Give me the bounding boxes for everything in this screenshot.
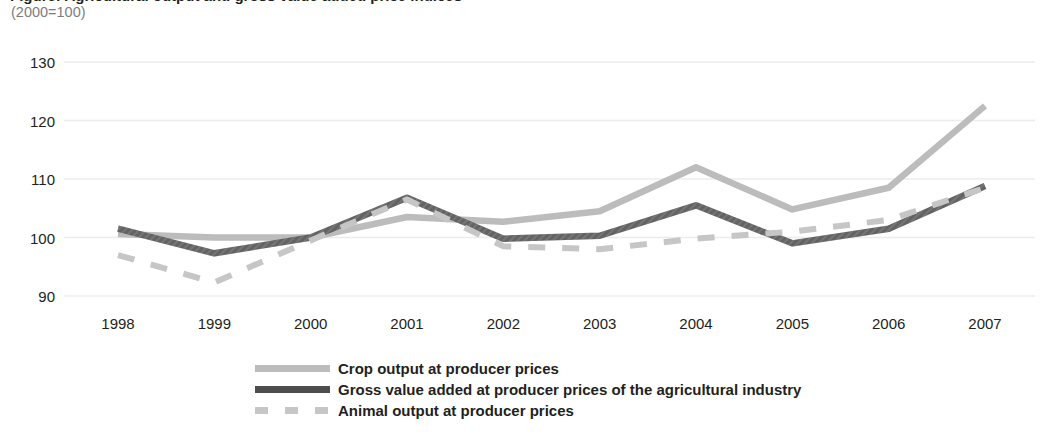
plot-area: 90100110120130 1998199920002001200220032… bbox=[0, 0, 1046, 340]
y-axis-tick-label: 120 bbox=[13, 113, 55, 128]
x-axis-tick-label: 2003 bbox=[560, 316, 640, 331]
y-axis-tick-label: 130 bbox=[13, 55, 55, 70]
x-axis-tick-label: 1998 bbox=[78, 316, 158, 331]
chart-legend: Crop output at producer pricesGross valu… bbox=[255, 358, 1045, 421]
legend-item-label: Animal output at producer prices bbox=[338, 403, 574, 418]
series-lines bbox=[118, 106, 985, 283]
series-line-0 bbox=[118, 106, 985, 238]
y-axis-tick-label: 90 bbox=[13, 289, 55, 304]
legend-item[interactable]: Animal output at producer prices bbox=[255, 400, 1045, 421]
legend-item-label: Gross value added at producer prices of … bbox=[338, 382, 801, 397]
solid-light-line-icon bbox=[255, 358, 330, 379]
x-axis-tick-label: 2006 bbox=[849, 316, 929, 331]
x-axis-tick-label: 2005 bbox=[752, 316, 832, 331]
legend-item[interactable]: Crop output at producer prices bbox=[255, 358, 1045, 379]
chart-figure: Figure: Agricultural output and gross va… bbox=[0, 0, 1046, 443]
dashed-light-line-icon bbox=[255, 400, 330, 421]
y-axis-tick-label: 110 bbox=[13, 172, 55, 187]
x-axis-tick-label: 2004 bbox=[656, 316, 736, 331]
x-axis-tick-label: 1999 bbox=[174, 316, 254, 331]
y-axis-tick-label: 100 bbox=[13, 230, 55, 245]
plot-svg bbox=[0, 0, 1046, 340]
x-axis-tick-label: 2001 bbox=[367, 316, 447, 331]
x-axis-tick-label: 2007 bbox=[945, 316, 1025, 331]
x-axis-tick-label: 2002 bbox=[463, 316, 543, 331]
gridlines bbox=[64, 62, 1035, 296]
hatched-dark-line-icon bbox=[255, 379, 330, 400]
legend-item[interactable]: Gross value added at producer prices of … bbox=[255, 379, 1045, 400]
x-axis-tick-label: 2000 bbox=[271, 316, 351, 331]
legend-item-label: Crop output at producer prices bbox=[338, 361, 559, 376]
